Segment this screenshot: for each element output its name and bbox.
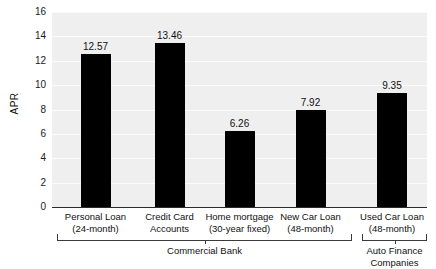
y-axis-tick-label: 12 bbox=[24, 56, 46, 66]
y-axis-tick-label: 16 bbox=[24, 7, 46, 17]
bar-value-label: 12.57 bbox=[66, 41, 126, 52]
category-label: Personal Loan(24-month) bbox=[54, 211, 138, 234]
category-label-line2: (48-month) bbox=[350, 223, 434, 235]
y-axis-tick-label: 6 bbox=[24, 129, 46, 139]
category-label-line2: (24-month) bbox=[54, 223, 138, 235]
y-axis-tick-label: 2 bbox=[24, 178, 46, 188]
category-label-line1: Used Car Loan bbox=[360, 211, 424, 222]
gridline bbox=[52, 12, 427, 13]
bar bbox=[81, 54, 111, 207]
group-label: Auto FinanceCompanies bbox=[335, 245, 436, 268]
bar-value-label: 7.92 bbox=[281, 97, 341, 108]
y-axis-ticks: 1614121086420 bbox=[22, 0, 46, 269]
gridline bbox=[52, 36, 427, 37]
bar-chart: APR 1614121086420 12.5713.466.267.929.35… bbox=[0, 0, 436, 269]
group-bracket bbox=[57, 234, 352, 241]
group-bracket bbox=[362, 234, 427, 241]
y-axis-tick-label: 0 bbox=[24, 202, 46, 212]
category-label: New Car Loan(48-month) bbox=[269, 211, 353, 234]
bar bbox=[296, 110, 326, 207]
group-label-line1: Auto Finance bbox=[367, 245, 423, 256]
bar-value-label: 13.46 bbox=[140, 30, 200, 41]
group-label: Commercial Bank bbox=[145, 245, 265, 257]
category-label-line1: Credit Card bbox=[145, 211, 194, 222]
plot-area: 12.5713.466.267.929.35 bbox=[52, 12, 427, 207]
category-label-line1: Home mortgage bbox=[205, 211, 273, 222]
y-axis-tick-label: 14 bbox=[24, 31, 46, 41]
bar-value-label: 9.35 bbox=[362, 80, 422, 91]
group-label-line2: Companies bbox=[335, 257, 436, 269]
y-axis-tick-label: 4 bbox=[24, 153, 46, 163]
bar bbox=[225, 131, 255, 207]
category-label-line1: New Car Loan bbox=[280, 211, 341, 222]
category-label: Used Car Loan(48-month) bbox=[350, 211, 434, 234]
y-axis-tick-label: 8 bbox=[24, 105, 46, 115]
bar bbox=[377, 93, 407, 207]
x-axis-line bbox=[52, 207, 427, 208]
y-axis-title: APR bbox=[9, 84, 20, 124]
y-axis-tick-label: 10 bbox=[24, 80, 46, 90]
bar bbox=[155, 43, 185, 207]
group-label-line1: Commercial Bank bbox=[167, 245, 242, 256]
category-label-line2: (48-month) bbox=[269, 223, 353, 235]
category-label-line1: Personal Loan bbox=[65, 211, 126, 222]
bar-value-label: 6.26 bbox=[210, 118, 270, 129]
